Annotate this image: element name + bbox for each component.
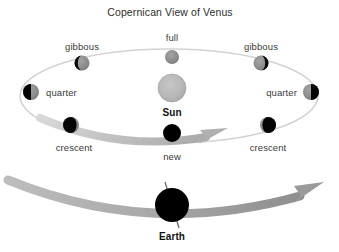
venus-phases-diagram: Copernican View of Venus full gibbous gi…	[0, 0, 339, 252]
venus-phase-gibbous-right	[254, 56, 269, 71]
phase-label-quarter-left: quarter	[46, 88, 77, 98]
phase-label-full: full	[166, 33, 179, 43]
diagram-title: Copernican View of Venus	[107, 7, 232, 18]
venus-phase-gibbous-left	[75, 56, 90, 71]
venus-phase-new	[163, 124, 181, 142]
phase-label-gibbous-left: gibbous	[65, 42, 99, 52]
phase-label-new: new	[163, 152, 181, 162]
venus-phase-quarter-right	[303, 84, 319, 100]
venus-phase-full	[165, 50, 179, 64]
phase-label-crescent-left: crescent	[56, 143, 93, 153]
earth-body	[155, 182, 189, 228]
earth-label: Earth	[159, 232, 185, 242]
phase-label-crescent-right: crescent	[250, 143, 287, 153]
sun-label: Sun	[162, 108, 181, 118]
venus-phase-quarter-left	[23, 84, 39, 100]
phase-label-gibbous-right: gibbous	[244, 42, 278, 52]
phase-label-quarter-right: quarter	[266, 88, 297, 98]
sun-body	[158, 74, 186, 102]
venus-phase-crescent-left	[63, 117, 79, 133]
venus-phase-crescent-right	[260, 117, 276, 133]
